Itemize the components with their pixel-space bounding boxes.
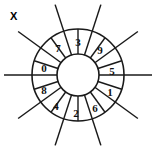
sector-4: 4 <box>53 100 59 112</box>
sector-3: 3 <box>75 36 81 48</box>
figure-label: X <box>10 10 18 22</box>
wheel-diagram-svg: 3951624807 X <box>0 0 157 148</box>
wheel-diagram-figure: 3951624807 X <box>0 0 157 148</box>
sector-9: 9 <box>97 44 103 56</box>
sector-5: 5 <box>109 65 115 77</box>
sector-8: 8 <box>41 84 47 96</box>
inner-circle <box>57 54 99 96</box>
sector-0: 0 <box>41 62 47 74</box>
sector-2: 2 <box>73 107 79 119</box>
sector-7: 7 <box>55 42 61 54</box>
sector-6: 6 <box>92 102 98 114</box>
sector-1: 1 <box>107 86 113 98</box>
